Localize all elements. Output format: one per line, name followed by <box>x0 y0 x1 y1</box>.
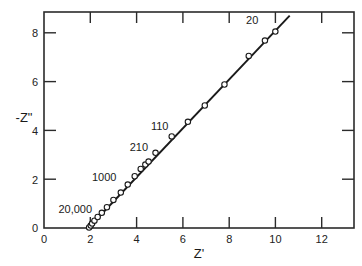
data-point-marker <box>169 134 174 139</box>
data-point-marker <box>132 174 137 179</box>
y-tick-label-4: 4 <box>32 125 38 137</box>
data-point-marker <box>99 210 104 215</box>
y-tick-label-2: 2 <box>32 174 38 186</box>
data-point-marker <box>111 197 116 202</box>
x-tick-label-0: 0 <box>41 233 47 245</box>
data-point-marker <box>118 190 123 195</box>
data-point-marker <box>262 38 267 43</box>
x-tick-label-4: 4 <box>134 233 140 245</box>
x-tick-label-12: 12 <box>316 233 328 245</box>
plot-canvas: 0 2 4 6 8 10 12 0 2 4 6 8 Z' -Z" 20,0001… <box>0 0 362 266</box>
frequency-label-2: 210 <box>130 141 148 153</box>
data-point-marker <box>153 150 158 155</box>
data-point-marker <box>146 159 151 164</box>
x-tick-label-2: 2 <box>87 233 93 245</box>
data-point-marker <box>138 166 143 171</box>
frequency-label-1: 1000 <box>92 171 116 183</box>
x-axis-title: Z' <box>194 246 204 261</box>
x-tick-label-8: 8 <box>226 233 232 245</box>
frequency-label-3: 110 <box>151 120 169 132</box>
plot-background <box>0 0 362 266</box>
y-tick-label-6: 6 <box>32 76 38 88</box>
data-point-marker <box>202 103 207 108</box>
y-axis-title: -Z" <box>16 110 33 125</box>
data-point-marker <box>104 205 109 210</box>
data-point-marker <box>185 119 190 124</box>
y-tick-label-0: 0 <box>32 222 38 234</box>
y-tick-label-8: 8 <box>32 27 38 39</box>
data-point-marker <box>125 182 130 187</box>
data-point-marker <box>222 82 227 87</box>
nyquist-impedance-plot: 0 2 4 6 8 10 12 0 2 4 6 8 Z' -Z" 20,0001… <box>0 0 362 266</box>
frequency-label-4: 20 <box>246 14 258 26</box>
x-tick-label-10: 10 <box>269 233 281 245</box>
data-point-marker <box>273 29 278 34</box>
x-tick-label-6: 6 <box>180 233 186 245</box>
data-point-marker <box>246 53 251 58</box>
frequency-label-0: 20,000 <box>58 203 92 215</box>
